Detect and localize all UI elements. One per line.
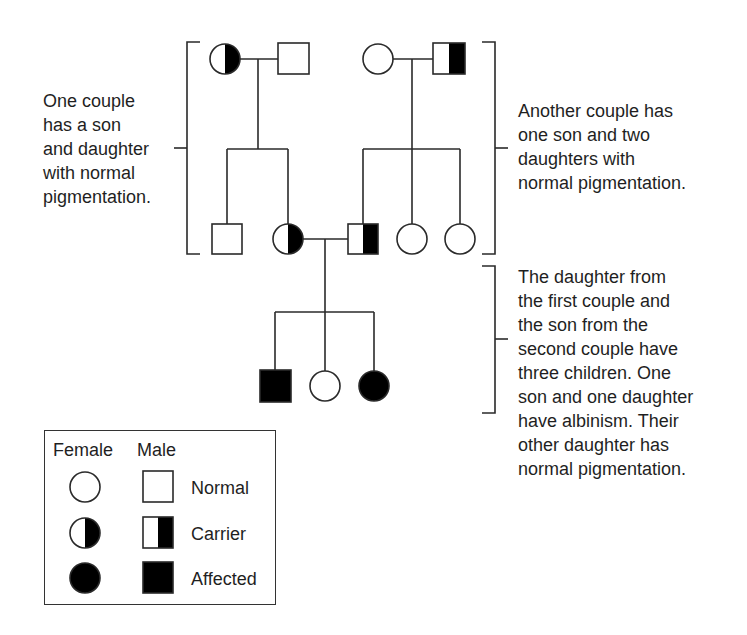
annotation-right-bottom: The daughter from the first couple and t… — [518, 265, 693, 481]
gen3-female-affected — [359, 371, 389, 401]
legend-label-normal: Normal — [191, 478, 249, 498]
gen2-female-normal-2 — [445, 224, 475, 254]
right-bottom-bracket — [482, 266, 508, 413]
annotation-right-top: Another couple has one son and two daugh… — [518, 99, 686, 195]
couple-1-lines — [227, 59, 288, 224]
legend-label-carrier: Carrier — [191, 524, 246, 544]
legend-header-female: Female — [53, 440, 113, 460]
left-bracket — [174, 42, 200, 254]
gen2-female-carrier — [273, 224, 303, 254]
gen1-male-carrier — [433, 43, 465, 74]
couple-2-lines — [363, 59, 460, 224]
gen3-male-affected — [260, 370, 291, 402]
legend-header-male: Male — [137, 440, 176, 460]
gen1-female-carrier — [210, 44, 240, 74]
gen2-male-normal — [212, 224, 242, 254]
gen1-male-normal — [278, 43, 309, 74]
annotation-left: One couple has a son and daughter with n… — [43, 89, 151, 209]
gen2-female-normal-1 — [397, 224, 427, 254]
gen3-female-normal — [310, 371, 340, 401]
legend-label-affected: Affected — [191, 569, 257, 589]
gen2-male-carrier — [348, 224, 378, 254]
right-top-bracket — [482, 42, 508, 254]
gen1-female-normal — [363, 44, 393, 74]
couple-3-lines — [275, 239, 374, 371]
